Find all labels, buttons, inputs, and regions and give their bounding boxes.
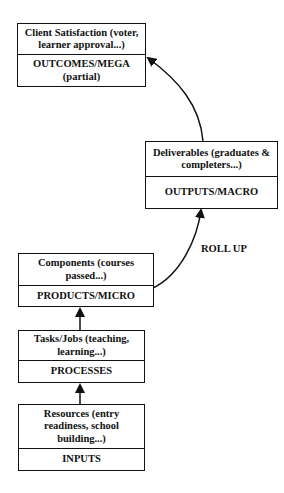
- arrow-products-to-outputs: [153, 210, 201, 288]
- outcomes-box: Client Satisfaction (voter, learner appr…: [17, 23, 146, 87]
- processes-level: PROCESSES: [19, 361, 144, 382]
- processes-box: Tasks/Jobs (teaching, learning...) PROCE…: [18, 330, 145, 383]
- outcomes-description: Client Satisfaction (voter, learner appr…: [18, 24, 145, 55]
- outputs-box: Deliverables (graduates & completers...)…: [145, 141, 278, 209]
- outputs-description: Deliverables (graduates & completers...): [146, 142, 277, 177]
- inputs-description: Resources (entry readiness, school build…: [19, 405, 144, 449]
- products-box: Components (courses passed...) PRODUCTS/…: [18, 253, 154, 307]
- inputs-box: Resources (entry readiness, school build…: [18, 404, 145, 471]
- processes-description: Tasks/Jobs (teaching, learning...): [19, 331, 144, 361]
- outcomes-level: OUTCOMES/MEGA (partial): [18, 55, 145, 86]
- products-level: PRODUCTS/MICRO: [19, 286, 153, 306]
- outputs-level: OUTPUTS/MACRO: [146, 177, 277, 208]
- arrow-outputs-to-outcomes: [148, 58, 203, 141]
- inputs-level: INPUTS: [19, 449, 144, 470]
- roll-up-label: ROLL UP: [201, 243, 247, 254]
- products-description: Components (courses passed...): [19, 254, 153, 286]
